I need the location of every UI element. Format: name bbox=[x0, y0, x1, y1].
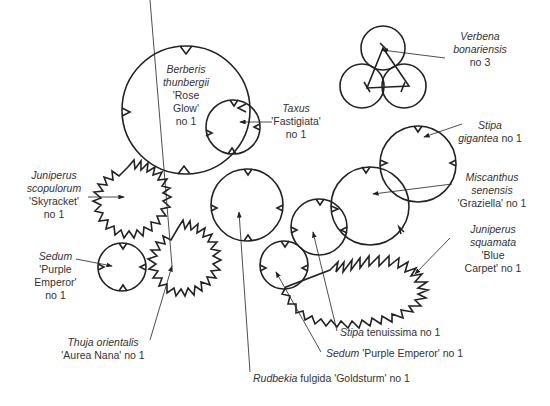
species: bonariensis bbox=[453, 43, 507, 55]
species: thunbergii bbox=[163, 76, 209, 88]
miscanthus-symbol bbox=[331, 167, 409, 245]
thuja-symbol bbox=[148, 220, 221, 296]
qty: no 3 bbox=[470, 56, 490, 68]
rest: 'Purple Emperor' no 1 bbox=[362, 347, 463, 359]
qty: no 1 bbox=[501, 262, 521, 274]
qty: no 1 bbox=[176, 115, 196, 127]
genus: Sedum bbox=[326, 347, 359, 359]
label-berberis: Berberis thunbergii 'Rose Glow' no 1 bbox=[148, 63, 224, 128]
genus: Taxus bbox=[282, 102, 310, 114]
genus: Juniperus bbox=[470, 223, 516, 235]
genus: Stipa bbox=[478, 119, 502, 131]
juniperus-scopulorum-symbol bbox=[93, 160, 171, 238]
genus: Thuja orientalis bbox=[67, 336, 138, 348]
cultivar: 'Aurea Nana' bbox=[61, 349, 121, 361]
qty: no 1 bbox=[506, 197, 526, 209]
genus: Miscanthus bbox=[465, 171, 518, 183]
label-juniperus-squamata: Juniperus squamata 'Blue Carpet' no 1 bbox=[458, 223, 528, 275]
qty: no 1 bbox=[124, 349, 144, 361]
label-taxus: Taxus 'Fastigiata' no 1 bbox=[266, 102, 326, 141]
verbena-group-symbol bbox=[340, 26, 426, 108]
qty: no 1 bbox=[286, 128, 306, 140]
cultivar: 'Rose bbox=[173, 89, 200, 101]
cultivar: 'Fastigiata' bbox=[271, 115, 321, 127]
label-thuja: Thuja orientalis 'Aurea Nana' no 1 bbox=[58, 336, 148, 362]
cultivar: Carpet' bbox=[465, 262, 499, 274]
label-juniperus-scopulorum: Juniperus scopulorum 'Skyracket' no 1 bbox=[18, 169, 90, 221]
genus: Verbena bbox=[460, 30, 499, 42]
label-verbena: Verbena bonariensis no 3 bbox=[445, 30, 515, 69]
label-miscanthus: Miscanthus senensis 'Graziella' no 1 bbox=[452, 171, 532, 210]
species: scopulorum bbox=[27, 182, 81, 194]
cultivar: 'Graziella' bbox=[458, 197, 503, 209]
sedum-left-symbol bbox=[98, 243, 146, 291]
rest: fulgida 'Goldsturm' no 1 bbox=[300, 372, 410, 384]
rest: tenuissima no 1 bbox=[367, 326, 441, 338]
genus: Sedum bbox=[39, 250, 72, 262]
species: squamata bbox=[470, 236, 516, 248]
genus: Juniperus bbox=[31, 169, 77, 181]
genus: Berberis bbox=[166, 63, 205, 75]
genus: Stipa bbox=[340, 326, 364, 338]
stipa-gigantea-symbol bbox=[380, 126, 456, 202]
planting-plan-diagram: Berberis thunbergii 'Rose Glow' no 1 Tax… bbox=[0, 0, 550, 406]
cultivar: 'Skyracket' bbox=[29, 195, 79, 207]
species: gigantea bbox=[458, 132, 498, 144]
qty: no 1 bbox=[501, 132, 521, 144]
genus: Rudbekia bbox=[253, 372, 297, 384]
cultivar: Glow' bbox=[173, 102, 199, 114]
species: senensis bbox=[471, 184, 512, 196]
label-sedum-left: Sedum 'Purple Emperor' no 1 bbox=[28, 250, 83, 302]
cultivar: Emperor' bbox=[34, 276, 76, 288]
cultivar: 'Blue bbox=[481, 249, 504, 261]
qty: no 1 bbox=[45, 289, 65, 301]
rudbekia-symbol bbox=[211, 169, 283, 241]
label-stipa-gigantea: Stipa gigantea no 1 bbox=[450, 119, 530, 145]
label-sedum-bottom: Sedum 'Purple Emperor' no 1 bbox=[326, 347, 463, 360]
qty: no 1 bbox=[44, 208, 64, 220]
label-rudbekia: Rudbekia fulgida 'Goldsturm' no 1 bbox=[253, 372, 410, 385]
cultivar: 'Purple bbox=[39, 263, 71, 275]
label-stipa-tenuissima: Stipa tenuissima no 1 bbox=[340, 326, 440, 339]
